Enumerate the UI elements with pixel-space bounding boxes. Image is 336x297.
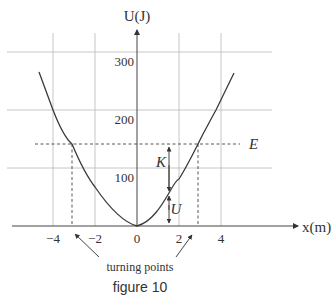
figure-caption: figure 10 (113, 279, 168, 295)
x-tick-0: 0 (134, 231, 141, 246)
x-axis-label: x(m) (302, 219, 331, 236)
x-tick-neg4: −4 (46, 231, 60, 246)
x-tick-2: 2 (176, 231, 183, 246)
energy-label: E (248, 136, 258, 152)
x-tick-4: 4 (218, 231, 225, 246)
kinetic-energy-label: K (155, 154, 167, 170)
energy-diagram: −4 −2 0 2 4 300 200 100 U(J) x(m) E K U … (0, 0, 336, 297)
x-tick-neg2: −2 (88, 231, 102, 246)
turning-points-label: turning points (106, 260, 173, 274)
y-axis-label: U(J) (124, 8, 151, 25)
potential-energy-label: U (171, 201, 183, 217)
y-tick-300: 300 (115, 54, 135, 69)
y-tick-200: 200 (115, 112, 135, 127)
y-tick-100: 100 (115, 170, 135, 185)
horizontal-gridlines (7, 52, 272, 168)
